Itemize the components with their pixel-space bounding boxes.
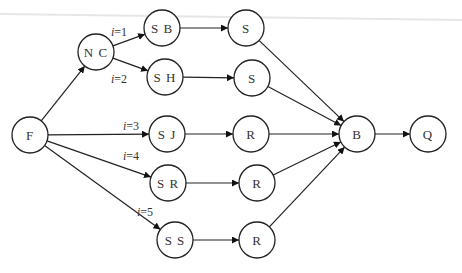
node-r1: R: [233, 116, 269, 152]
edge-r2-to-b: [273, 142, 341, 175]
node-label: S J: [158, 127, 177, 142]
node-sb: S B: [144, 10, 180, 46]
node-label: S: [242, 21, 250, 36]
node-label: R: [252, 233, 262, 248]
edge-label-i-4: i=4: [123, 149, 139, 163]
node-b: B: [339, 116, 375, 152]
edge-s1-to-b: [259, 40, 344, 121]
node-s2: S: [234, 60, 270, 96]
node-label: S R: [157, 176, 179, 191]
node-label: S S: [165, 233, 186, 248]
node-r3: R: [239, 222, 275, 258]
edge-label-i-3: i=3: [123, 119, 139, 133]
node-label: S H: [154, 70, 177, 85]
node-sr: S R: [150, 165, 186, 201]
node-label: R: [252, 176, 262, 191]
node-nc: N C: [78, 34, 114, 70]
edge-f-to-sj: [48, 134, 149, 135]
diagram-canvas: FN CS BS HS JS RS SSSRRRBQ i=1i=2i=3i=4i…: [0, 0, 462, 273]
edge-labels-layer: i=1i=2i=3i=4i=5: [111, 25, 153, 219]
node-f: F: [12, 117, 48, 153]
node-label: F: [26, 128, 34, 143]
flow-diagram: FN CS BS HS JS RS SSSRRRBQ i=1i=2i=3i=4i…: [0, 0, 462, 273]
edge-sh-to-s2: [183, 77, 234, 78]
node-label: R: [246, 127, 256, 142]
edge-label-i-5: i=5: [137, 205, 153, 219]
node-s1: S: [228, 10, 264, 46]
node-sh: S H: [147, 59, 183, 95]
edge-s2-to-b: [268, 86, 341, 125]
node-label: B: [352, 127, 362, 142]
node-label: Q: [423, 127, 433, 142]
edge-nc-to-sh: [113, 58, 148, 71]
edge-label-i-1: i=1: [111, 25, 127, 39]
node-label: S: [248, 71, 256, 86]
node-label: N C: [84, 45, 108, 60]
edge-label-i-2: i=2: [111, 72, 127, 86]
node-sj: S J: [149, 116, 185, 152]
node-ss: S S: [157, 222, 193, 258]
node-label: S B: [151, 21, 173, 36]
node-r2: R: [239, 165, 275, 201]
node-q: Q: [410, 116, 446, 152]
edge-f-to-nc: [41, 66, 85, 121]
